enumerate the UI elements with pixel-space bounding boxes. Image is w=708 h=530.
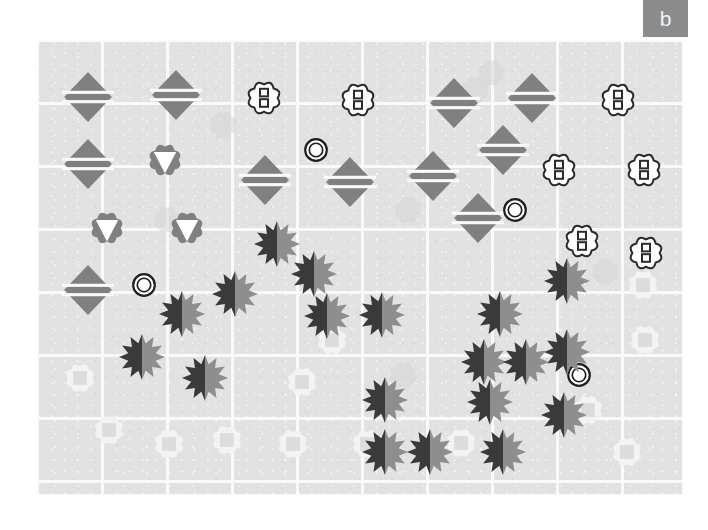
marker-gray-flower-white-triangle: [167, 208, 207, 248]
marker-two-tone-starburst: [182, 355, 228, 401]
marker-two-tone-starburst: [541, 392, 587, 438]
marker-two-tone-starburst: [477, 291, 523, 337]
marker-outlined-flower-two-squares: [562, 221, 602, 261]
marker-striped-diamond: [324, 156, 376, 208]
marker-striped-diamond: [239, 154, 291, 206]
plot-panel: [37, 40, 683, 495]
marker-two-tone-starburst: [362, 377, 408, 423]
marker-layer: [37, 40, 683, 495]
marker-striped-diamond: [62, 138, 114, 190]
marker-double-ring-circle: [503, 198, 527, 222]
marker-two-tone-starburst: [159, 291, 205, 337]
marker-outlined-flower-two-squares: [598, 80, 638, 120]
marker-two-tone-starburst: [304, 293, 350, 339]
marker-striped-diamond: [477, 124, 529, 176]
marker-outlined-flower-two-squares: [338, 80, 378, 120]
marker-striped-diamond: [62, 264, 114, 316]
marker-two-tone-starburst: [359, 292, 405, 338]
marker-striped-diamond: [452, 192, 504, 244]
figure-canvas: b: [0, 0, 708, 530]
marker-two-tone-starburst: [467, 379, 513, 425]
marker-double-ring-circle: [304, 138, 328, 162]
marker-two-tone-starburst: [291, 251, 337, 297]
marker-striped-diamond: [506, 72, 558, 124]
marker-two-tone-starburst: [544, 329, 590, 375]
marker-outlined-flower-two-squares: [626, 233, 666, 273]
marker-two-tone-starburst: [212, 271, 258, 317]
marker-two-tone-starburst: [407, 429, 453, 475]
marker-outlined-flower-two-squares: [539, 150, 579, 190]
marker-gray-flower-white-triangle: [145, 140, 185, 180]
marker-striped-diamond: [150, 69, 202, 121]
marker-outlined-flower-two-squares: [244, 78, 284, 118]
marker-striped-diamond: [428, 77, 480, 129]
marker-double-ring-circle: [132, 273, 156, 297]
marker-two-tone-starburst: [480, 429, 526, 475]
marker-gray-flower-white-triangle: [87, 208, 127, 248]
marker-outlined-flower-two-squares: [624, 150, 664, 190]
marker-two-tone-starburst: [544, 258, 590, 304]
marker-two-tone-starburst: [362, 429, 408, 475]
panel-label: b: [643, 0, 688, 37]
marker-striped-diamond: [62, 71, 114, 123]
marker-two-tone-starburst: [119, 334, 165, 380]
